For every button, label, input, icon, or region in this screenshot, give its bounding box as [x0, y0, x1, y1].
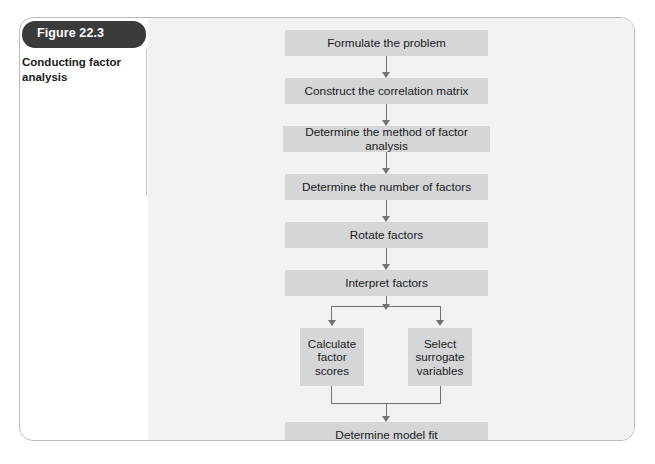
flow-branch-calculate-factor-scores: Calculate factor scores: [300, 328, 364, 386]
connector-branch-bar: [331, 306, 441, 307]
branch-b-line3: variables: [417, 364, 463, 378]
flow-step-final-label: Determine model fit: [335, 428, 437, 440]
flow-step-5-label: Rotate factors: [350, 228, 423, 242]
connector-merge-left: [331, 386, 332, 404]
flow-step-6: Interpret factors: [285, 270, 488, 296]
flow-step-1-label: Formulate the problem: [327, 36, 446, 50]
flow-step-2-label: Construct the correlation matrix: [305, 84, 469, 98]
arrow-branch-right: [436, 320, 444, 326]
flow-step-final: Determine model fit: [285, 422, 488, 440]
branch-b-line1: Select: [424, 337, 456, 351]
flow-step-3: Determine the method of factor analysis: [283, 126, 490, 152]
flow-step-5: Rotate factors: [285, 222, 488, 248]
flow-step-3-label: Determine the method of factor analysis: [283, 125, 490, 153]
figure-number-label: Figure 22.3: [37, 26, 104, 40]
flow-step-2: Construct the correlation matrix: [285, 78, 488, 104]
arrow-branch-left: [328, 320, 336, 326]
figure-number-badge: Figure 22.3: [22, 21, 146, 48]
flow-step-1: Formulate the problem: [285, 30, 488, 56]
connector-merge-right: [440, 386, 441, 404]
flow-branch-select-surrogate-variables: Select surrogate variables: [408, 328, 472, 386]
figure-caption-column: Figure 22.3 Conducting factor analysis: [20, 18, 148, 440]
flow-step-4-label: Determine the number of factors: [302, 180, 471, 194]
flowchart-panel: Formulate the problem Construct the corr…: [148, 18, 634, 440]
branch-a-line3: scores: [315, 364, 349, 378]
branch-b-line2: surrogate: [416, 350, 465, 364]
branch-a-line2: factor: [318, 350, 347, 364]
figure-container: Formulate the problem Construct the corr…: [0, 0, 655, 464]
flow-step-6-label: Interpret factors: [345, 276, 428, 290]
branch-a-line1: Calculate: [308, 337, 356, 351]
flow-step-4: Determine the number of factors: [285, 174, 488, 200]
figure-caption-text: Conducting factor analysis: [22, 55, 138, 84]
